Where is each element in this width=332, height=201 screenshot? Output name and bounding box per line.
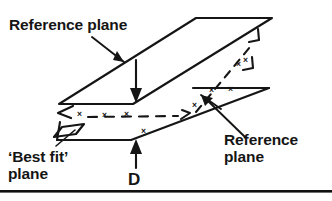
measurement-mark: × (77, 110, 82, 119)
flatness-tolerance-diagram: Reference plane Reference plane ‘Best fi… (0, 0, 332, 201)
measurement-mark: × (192, 101, 197, 110)
label-reference-plane-top: Reference plane (9, 16, 127, 33)
dimension-d-arrow (130, 139, 142, 168)
upper-plane-down-arrow (130, 60, 142, 103)
bottom-rule (0, 190, 332, 193)
label-reference-plane-right: Reference plane (224, 131, 298, 166)
best-fit-plane-left-edge (58, 106, 73, 118)
measurement-mark: × (141, 127, 146, 136)
measurement-mark: × (243, 56, 248, 65)
measurement-mark: × (209, 86, 214, 95)
label-dimension-d: D (128, 170, 140, 189)
measurement-mark: × (228, 85, 233, 94)
measurement-mark: × (102, 111, 107, 120)
measurement-mark: × (124, 110, 129, 119)
label-best-fit-plane: ‘Best fit’ plane (8, 148, 68, 183)
reference-plane-top-leader (92, 37, 124, 62)
measurement-mark: × (236, 60, 241, 69)
